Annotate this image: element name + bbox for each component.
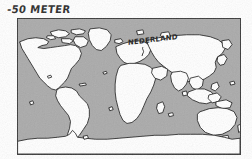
land-island-hawaii — [48, 75, 52, 78]
figure-caption: -50 METER — [6, 2, 128, 17]
land-island-indian — [169, 113, 174, 117]
land-sri-lanka — [183, 91, 188, 96]
land-arctic-islands-2 — [72, 29, 86, 35]
land-island-svalbard — [137, 30, 144, 35]
land-island-falkland — [83, 135, 88, 139]
nederland-leader-line — [138, 47, 148, 56]
land-island-atlantic-1 — [103, 71, 107, 74]
sea-level-figure: -50 METER — [0, 0, 252, 159]
land-island-pacific-2 — [230, 81, 235, 85]
land-island-atlantic-2 — [109, 107, 113, 111]
land-island-pacific-1 — [30, 101, 34, 105]
land-island-caribbean — [79, 83, 86, 86]
